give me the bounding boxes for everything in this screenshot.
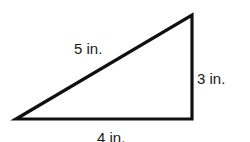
triangle-diagram: 5 in. 3 in. 4 in. (0, 0, 250, 142)
hypotenuse-label: 5 in. (74, 40, 102, 57)
right-triangle (16, 15, 192, 119)
horizontal-leg-label: 4 in. (97, 129, 125, 142)
vertical-leg-label: 3 in. (197, 70, 225, 87)
